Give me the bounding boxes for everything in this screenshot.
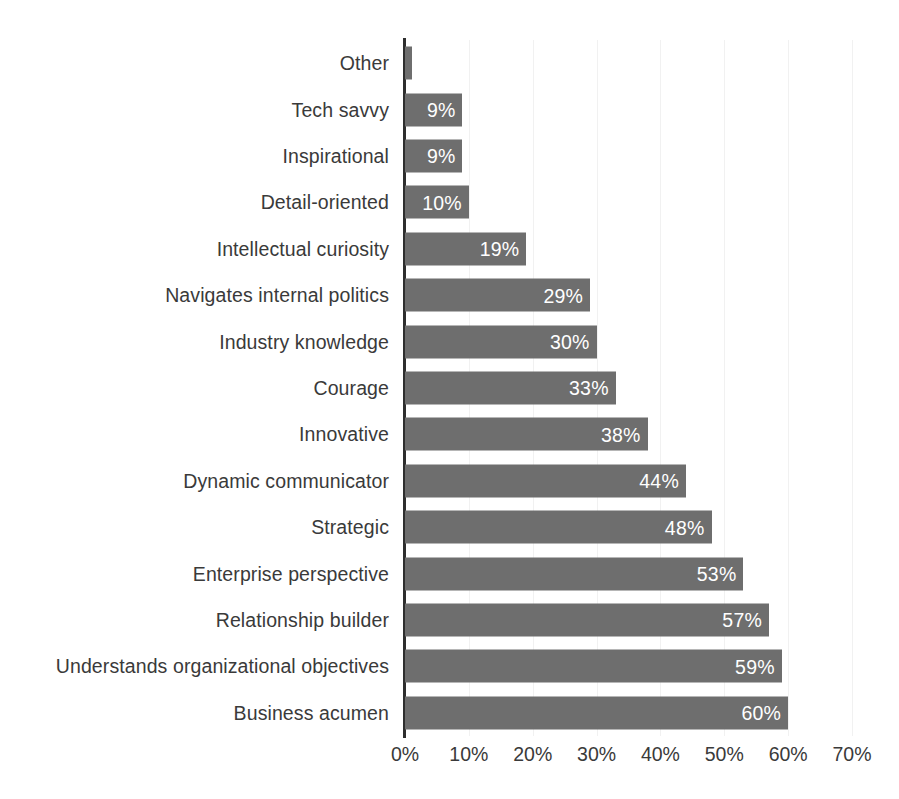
bar[interactable]: 19%: [405, 232, 526, 265]
bar-chart: OtherTech savvy9%Inspirational9%Detail-o…: [0, 0, 899, 799]
bar-value-label: 30%: [550, 331, 590, 353]
bar-value-label: 19%: [480, 238, 520, 260]
bar-row: Detail-oriented10%: [0, 179, 899, 225]
bar-container: 9%: [405, 93, 462, 126]
bar-row: Courage33%: [0, 365, 899, 411]
category-label: Innovative: [9, 423, 389, 445]
bar-container: 57%: [405, 603, 769, 636]
bar-row: Inspirational9%: [0, 133, 899, 179]
bar-value-label: 9%: [427, 145, 456, 167]
bar-row: Business acumen60%: [0, 690, 899, 736]
x-tick-label: 50%: [705, 742, 744, 766]
bar-value-label: 60%: [742, 702, 782, 724]
bar-value-label: 44%: [639, 470, 679, 492]
bar-value-label: 33%: [569, 377, 609, 399]
x-tick-label: 0%: [391, 742, 419, 766]
x-tick-label: 30%: [577, 742, 616, 766]
bar[interactable]: 44%: [405, 464, 686, 497]
bar[interactable]: 29%: [405, 279, 590, 312]
bar-value-label: 9%: [427, 99, 456, 121]
bar-container: 30%: [405, 325, 597, 358]
bar-value-label: 59%: [735, 655, 775, 677]
category-label: Navigates internal politics: [9, 284, 389, 306]
bar-value-label: 48%: [665, 516, 705, 538]
bar[interactable]: 53%: [405, 557, 743, 590]
category-label: Business acumen: [9, 702, 389, 724]
x-tick-label: 40%: [641, 742, 680, 766]
category-label: Tech savvy: [9, 99, 389, 121]
bar-row: Other: [0, 40, 899, 86]
bar-container: 44%: [405, 464, 686, 497]
category-label: Enterprise perspective: [9, 563, 389, 585]
bar-value-label: 29%: [544, 284, 584, 306]
bar-rows: OtherTech savvy9%Inspirational9%Detail-o…: [0, 40, 899, 736]
bar-row: Navigates internal politics29%: [0, 272, 899, 318]
bar[interactable]: 48%: [405, 511, 712, 544]
bar-row: Innovative38%: [0, 411, 899, 457]
bar-container: 38%: [405, 418, 648, 451]
bar[interactable]: [405, 47, 412, 80]
bar-row: Relationship builder57%: [0, 597, 899, 643]
bar[interactable]: 33%: [405, 371, 616, 404]
x-tick-label: 60%: [769, 742, 808, 766]
x-tick-label: 70%: [832, 742, 871, 766]
bar-row: Industry knowledge30%: [0, 318, 899, 364]
bar-container: 9%: [405, 139, 462, 172]
bar[interactable]: 9%: [405, 93, 462, 126]
bar-value-label: 53%: [697, 563, 737, 585]
category-label: Relationship builder: [9, 609, 389, 631]
bar-value-label: 38%: [601, 423, 641, 445]
category-label: Dynamic communicator: [9, 470, 389, 492]
bar-container: 19%: [405, 232, 526, 265]
bar-container: 10%: [405, 186, 469, 219]
x-tick-label: 20%: [513, 742, 552, 766]
bar-container: 48%: [405, 511, 712, 544]
category-label: Understands organizational objectives: [9, 655, 389, 677]
bar-container: 59%: [405, 650, 782, 683]
bar-row: Enterprise perspective53%: [0, 550, 899, 596]
x-tick-label: 10%: [449, 742, 488, 766]
bar[interactable]: 57%: [405, 603, 769, 636]
bar-value-label: 57%: [722, 609, 762, 631]
bar-row: Understands organizational objectives59%: [0, 643, 899, 689]
bar-container: 33%: [405, 371, 616, 404]
bar[interactable]: 38%: [405, 418, 648, 451]
category-label: Intellectual curiosity: [9, 238, 389, 260]
category-label: Other: [9, 52, 389, 74]
bar[interactable]: 9%: [405, 139, 462, 172]
bar-row: Strategic48%: [0, 504, 899, 550]
bar-row: Intellectual curiosity19%: [0, 226, 899, 272]
bar-container: 60%: [405, 696, 788, 729]
x-axis-ticks: 0%10%20%30%40%50%60%70%: [405, 742, 865, 772]
category-label: Courage: [9, 377, 389, 399]
bar-row: Tech savvy9%: [0, 86, 899, 132]
category-label: Strategic: [9, 516, 389, 538]
category-label: Inspirational: [9, 145, 389, 167]
bar-value-label: 10%: [422, 191, 462, 213]
bar-container: [405, 47, 411, 80]
bar[interactable]: 30%: [405, 325, 597, 358]
bar[interactable]: 60%: [405, 696, 788, 729]
category-label: Industry knowledge: [9, 331, 389, 353]
bar-row: Dynamic communicator44%: [0, 458, 899, 504]
bar[interactable]: 59%: [405, 650, 782, 683]
bar-container: 53%: [405, 557, 743, 590]
category-label: Detail-oriented: [9, 191, 389, 213]
bar-container: 29%: [405, 279, 590, 312]
bar[interactable]: 10%: [405, 186, 469, 219]
